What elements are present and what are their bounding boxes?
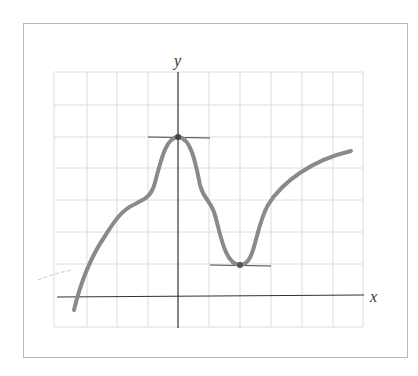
y-axis-label: y xyxy=(172,52,182,70)
function-curve xyxy=(74,137,351,310)
x-axis xyxy=(57,295,364,297)
graph: y x xyxy=(0,0,418,376)
x-axis-label: x xyxy=(369,288,377,305)
min-point xyxy=(237,262,243,268)
stray-mark xyxy=(38,270,72,280)
max-point xyxy=(175,134,181,140)
